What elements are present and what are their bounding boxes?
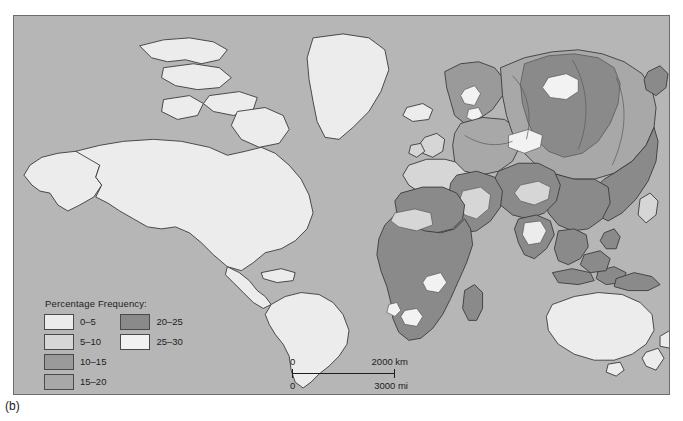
legend-item-5-10: 5–10 (44, 333, 106, 350)
scalebar-km-row: 0 2000 km (290, 356, 408, 367)
scalebar-km-min: 0 (290, 356, 295, 367)
legend-column-right: 20–25 25–30 (120, 313, 182, 390)
scalebar-line (292, 373, 394, 374)
scalebar-mi-min: 0 (290, 380, 295, 391)
map-frame: Percentage Frequency: 0–5 5–10 10–15 (13, 15, 670, 395)
panel-caption: (b) (5, 399, 20, 413)
legend-swatch-20-25 (120, 314, 150, 330)
scalebar-tick-start (292, 369, 293, 378)
legend-swatch-10-15 (44, 354, 74, 370)
legend-label-25-30: 25–30 (156, 337, 182, 347)
legend-item-20-25: 20–25 (120, 313, 182, 330)
legend-swatch-0-5 (44, 314, 74, 330)
legend-label-0-5: 0–5 (80, 317, 96, 327)
scalebar-mi-max: 3000 mi (374, 380, 408, 391)
figure-panel: Percentage Frequency: 0–5 5–10 10–15 (0, 0, 683, 421)
legend-label-10-15: 10–15 (80, 357, 106, 367)
legend-swatch-25-30 (120, 334, 150, 350)
scalebar-km-max: 2000 km (372, 356, 408, 367)
scalebar-tick-end (394, 369, 395, 378)
map-scalebar: 0 2000 km 0 3000 mi (290, 356, 408, 391)
legend-title: Percentage Frequency: (45, 298, 204, 309)
legend-item-15-20: 15–20 (44, 373, 106, 390)
legend-item-25-30: 25–30 (120, 333, 182, 350)
legend-swatch-5-10 (44, 334, 74, 350)
legend-column-left: 0–5 5–10 10–15 15–20 (44, 313, 106, 390)
region-madagascar (463, 285, 483, 321)
legend-item-0-5: 0–5 (44, 313, 106, 330)
legend-item-10-15: 10–15 (44, 353, 106, 370)
legend-swatch-15-20 (44, 374, 74, 390)
legend-label-5-10: 5–10 (80, 337, 101, 347)
scalebar-graphic (290, 369, 408, 378)
scalebar-mi-row: 0 3000 mi (290, 380, 408, 391)
legend-label-20-25: 20–25 (156, 317, 182, 327)
legend-label-15-20: 15–20 (80, 377, 106, 387)
map-legend: Percentage Frequency: 0–5 5–10 10–15 (44, 298, 204, 390)
